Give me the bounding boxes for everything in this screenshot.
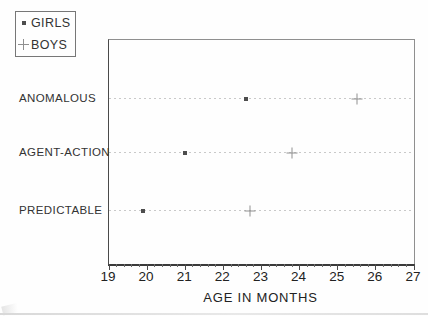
x-minor-tick bbox=[383, 264, 384, 267]
x-minor-tick bbox=[284, 264, 285, 267]
boys-plus-marker bbox=[287, 147, 298, 158]
x-minor-tick bbox=[116, 264, 117, 267]
x-minor-tick bbox=[192, 264, 193, 267]
x-minor-tick bbox=[322, 264, 323, 267]
x-tick-label-22: 22 bbox=[209, 269, 235, 284]
girls-dot-marker bbox=[244, 97, 248, 101]
boys-plus-marker bbox=[351, 93, 362, 104]
boys-point-predictable bbox=[245, 205, 256, 216]
x-minor-tick bbox=[398, 264, 399, 267]
x-minor-tick bbox=[314, 264, 315, 267]
legend-item-boys: BOYS bbox=[16, 35, 75, 55]
legend-label-girls: GIRLS bbox=[31, 16, 71, 30]
x-minor-tick bbox=[360, 264, 361, 267]
x-minor-tick bbox=[215, 264, 216, 267]
x-minor-tick bbox=[200, 264, 201, 267]
chart-figure: GIRLS BOYS AGE IN MONTHS ANOMALOUSAGENT-… bbox=[0, 0, 428, 316]
x-minor-tick bbox=[353, 264, 354, 267]
boys-plus-marker bbox=[245, 205, 256, 216]
x-tick-label-26: 26 bbox=[362, 269, 388, 284]
boys-point-agent-action bbox=[287, 147, 298, 158]
gridline-anomalous bbox=[109, 98, 414, 99]
girls-point-agent-action bbox=[183, 151, 187, 155]
x-minor-tick bbox=[208, 264, 209, 267]
x-minor-tick bbox=[276, 264, 277, 267]
x-minor-tick bbox=[231, 264, 232, 267]
girls-dot-marker bbox=[183, 151, 187, 155]
x-minor-tick bbox=[345, 264, 346, 267]
legend: GIRLS BOYS bbox=[15, 11, 76, 57]
category-label-agent-action: AGENT-ACTION bbox=[19, 146, 110, 158]
x-minor-tick bbox=[269, 264, 270, 267]
gridline-agent-action bbox=[109, 152, 414, 153]
x-minor-tick bbox=[238, 264, 239, 267]
boys-point-anomalous bbox=[351, 93, 362, 104]
x-minor-tick bbox=[307, 264, 308, 267]
x-minor-tick bbox=[170, 264, 171, 267]
girls-point-predictable bbox=[141, 209, 145, 213]
legend-item-girls: GIRLS bbox=[16, 13, 75, 33]
x-tick-label-24: 24 bbox=[286, 269, 312, 284]
x-minor-tick bbox=[253, 264, 254, 267]
x-tick-label-21: 21 bbox=[171, 269, 197, 284]
x-minor-tick bbox=[406, 264, 407, 267]
x-axis-title: AGE IN MONTHS bbox=[108, 290, 413, 305]
x-minor-tick bbox=[292, 264, 293, 267]
girls-dot-icon bbox=[16, 21, 31, 25]
girls-point-anomalous bbox=[244, 97, 248, 101]
scan-artifact-bottom-edge bbox=[0, 313, 428, 315]
x-minor-tick bbox=[391, 264, 392, 267]
category-label-anomalous: ANOMALOUS bbox=[19, 92, 96, 104]
boys-plus-icon bbox=[16, 39, 31, 50]
x-minor-tick bbox=[162, 264, 163, 267]
plot-area bbox=[108, 39, 415, 266]
x-tick-label-25: 25 bbox=[324, 269, 350, 284]
girls-dot-marker bbox=[141, 209, 145, 213]
x-minor-tick bbox=[154, 264, 155, 267]
gridline-predictable bbox=[109, 210, 414, 211]
x-tick-label-27: 27 bbox=[400, 269, 426, 284]
x-minor-tick bbox=[124, 264, 125, 267]
x-minor-tick bbox=[131, 264, 132, 267]
x-tick-label-20: 20 bbox=[133, 269, 159, 284]
x-tick-label-19: 19 bbox=[95, 269, 121, 284]
category-label-predictable: PREDICTABLE bbox=[19, 204, 102, 216]
x-tick-label-23: 23 bbox=[248, 269, 274, 284]
x-minor-tick bbox=[330, 264, 331, 267]
x-minor-tick bbox=[139, 264, 140, 267]
x-minor-tick bbox=[368, 264, 369, 267]
x-minor-tick bbox=[177, 264, 178, 267]
x-minor-tick bbox=[246, 264, 247, 267]
legend-label-boys: BOYS bbox=[31, 38, 67, 52]
